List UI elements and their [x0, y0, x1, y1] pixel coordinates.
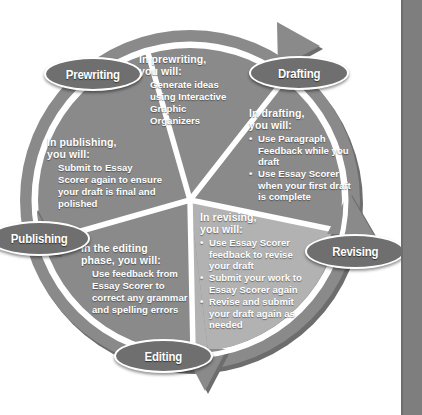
stage-pill-prewriting[interactable]: Prewriting — [44, 57, 142, 91]
stage-pill-drafting[interactable]: Drafting — [249, 56, 349, 90]
stage-list-drafting: Use Paragraph Feedback while you draft U… — [249, 133, 351, 202]
stage-heading-publishing: In publishing, you will: — [47, 137, 171, 160]
page-canvas: In prewriting, you will: Generate ideas … — [0, 0, 422, 415]
stage-heading-drafting: In drafting, you will: — [249, 108, 351, 131]
list-item: and spelling errors — [92, 304, 201, 315]
stage-text-drafting: In drafting, you will: Use Paragraph Fee… — [249, 108, 351, 204]
list-item: Essay Scorer to — [92, 280, 201, 291]
list-item: your draft is final and — [58, 186, 171, 197]
stage-pill-label: Prewriting — [66, 67, 120, 82]
stage-pill-editing[interactable]: Editing — [114, 339, 213, 373]
list-item: Scorer again to ensure — [58, 174, 171, 185]
list-item: polished — [58, 198, 171, 209]
list-item: Revise and submit your draft again as ne… — [200, 296, 308, 330]
list-item: Submit your work to Essay Scorer again — [200, 272, 308, 295]
list-item: correct any grammar — [92, 292, 201, 303]
stage-heading-revising: In revising, you will: — [200, 212, 308, 235]
stage-list-prewriting: Generate ideas using Interactive Graphic… — [139, 79, 247, 126]
list-item: Organizers — [150, 115, 247, 126]
stage-pill-label: Drafting — [278, 66, 320, 81]
list-item: Graphic — [150, 103, 247, 114]
list-item: Use Essay Scorer feedback to revise your… — [200, 237, 308, 271]
stage-text-editing: In the editing phase, you will: Use feed… — [81, 243, 201, 316]
list-item: Use feedback from — [92, 268, 201, 279]
stage-text-revising: In revising, you will: Use Essay Scorer … — [200, 212, 308, 331]
stage-pill-label: Revising — [332, 244, 378, 259]
stage-pill-revising[interactable]: Revising — [305, 234, 405, 269]
list-item: Generate ideas — [150, 79, 247, 90]
stage-heading-editing: In the editing phase, you will: — [81, 243, 201, 266]
list-item: Use Essay Scorer when your first draft i… — [249, 168, 351, 202]
stage-pill-label: Editing — [145, 349, 183, 364]
stage-pill-label: Publishing — [11, 231, 68, 246]
stage-heading-prewriting: In prewriting, you will: — [139, 54, 247, 77]
page-margin-strip — [401, 0, 422, 415]
list-item: Use Paragraph Feedback while you draft — [249, 133, 351, 167]
stage-list-publishing: Submit to Essay Scorer again to ensure y… — [47, 162, 171, 209]
stage-list-revising: Use Essay Scorer feedback to revise your… — [200, 237, 308, 330]
stage-text-publishing: In publishing, you will: Submit to Essay… — [47, 137, 171, 210]
list-item: Submit to Essay — [58, 162, 171, 173]
list-item: using Interactive — [150, 91, 247, 102]
stage-list-editing: Use feedback from Essay Scorer to correc… — [81, 268, 201, 315]
stage-text-prewriting: In prewriting, you will: Generate ideas … — [139, 54, 247, 127]
